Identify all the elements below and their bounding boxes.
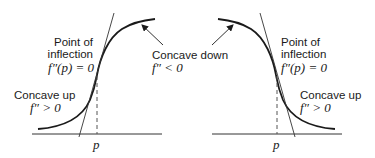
left-inflection-formula: f″(p) = 0 [48, 61, 94, 75]
diagram-canvas [0, 0, 375, 158]
right-inflection-formula: f″(p) = 0 [281, 61, 327, 75]
right-p-tick-label: p [273, 138, 280, 152]
right-concave-down-arrow [212, 25, 233, 45]
left-concave-down-arrow [142, 25, 163, 45]
concave-down-formula: f″ < 0 [152, 61, 183, 75]
left-graph [32, 13, 163, 137]
left-concave-up-formula: f″ > 0 [30, 101, 61, 115]
right-concave-up-formula: f″ > 0 [300, 101, 331, 115]
right-graph [212, 13, 342, 137]
left-p-tick-label: p [93, 138, 100, 152]
